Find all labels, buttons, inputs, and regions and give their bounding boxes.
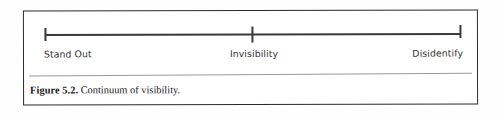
axis-label-disidentify: Disidentify [412,47,463,60]
continuum-chart: Stand Out Invisibility Disidentify [24,11,479,76]
figure-frame: Stand Out Invisibility Disidentify Figur… [23,10,478,106]
figure-caption: Figure 5.2. Continuum of visibility. [30,82,470,98]
axis-label-invisibility: Invisibility [179,47,329,60]
axis-label-stand-out: Stand Out [44,47,92,60]
caption-figure-number: Figure 5.2. [30,84,78,95]
scanned-page: Stand Out Invisibility Disidentify Figur… [0,0,501,114]
caption-description: Continuum of visibility. [78,84,180,95]
axis-label-group: Stand Out Invisibility Disidentify [24,47,479,66]
continuum-axis-svg [24,11,479,76]
